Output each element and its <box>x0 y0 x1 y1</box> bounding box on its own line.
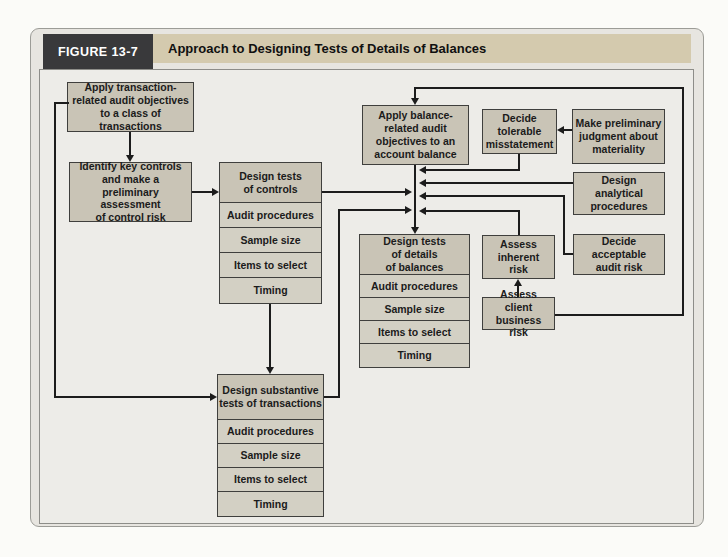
connector-substantive-to-junction <box>338 209 340 398</box>
connector-tolerable-to-junction <box>425 169 520 171</box>
node-decide-tolerable-misstatement: Decide tolerable misstatement <box>482 109 557 154</box>
arrowhead-left-icon <box>557 126 564 134</box>
stack-design-substantive-tests: Design substantive tests of transactions… <box>217 374 324 517</box>
connector-client-risk-to-balance-loop <box>555 314 684 316</box>
stack-row-audit-procedures: Audit procedures <box>220 203 321 228</box>
connector-inherent-risk-to-junction <box>425 210 520 212</box>
node-identify-key-controls: Identify key controls and make a prelimi… <box>69 162 192 222</box>
stack-row-items-to-select: Items to select <box>220 253 321 278</box>
stack-row-timing: Timing <box>218 492 323 516</box>
stack-header-design-tests-of-controls: Design tests of controls <box>220 163 321 203</box>
flowchart-area: Apply transaction- related audit objecti… <box>39 69 694 524</box>
connector-inherent-risk-to-junction <box>518 211 520 235</box>
figure-title: Approach to Designing Tests of Details o… <box>153 34 691 63</box>
stack-row-sample-size: Sample size <box>220 228 321 253</box>
stack-row-sample-size: Sample size <box>218 444 323 468</box>
arrowhead-right-icon <box>405 188 412 196</box>
arrowhead-down-icon <box>126 155 134 162</box>
connector-acceptable-risk-to-junction <box>563 195 565 255</box>
figure-card: FIGURE 13-7 Approach to Designing Tests … <box>30 28 704 527</box>
stack-header-design-substantive-tests: Design substantive tests of transactions <box>218 375 323 420</box>
stack-row-audit-procedures: Audit procedures <box>360 275 469 298</box>
connector-balance-to-details <box>414 165 416 227</box>
arrowhead-down-icon <box>411 227 419 234</box>
connector-acceptable-risk-to-junction <box>564 253 573 255</box>
stack-row-sample-size: Sample size <box>360 298 469 321</box>
connector-transaction-to-substantive-loop <box>54 102 56 398</box>
node-apply-balance-related-audit-objectives: Apply balance- related audit objectives … <box>362 105 469 165</box>
node-apply-transaction-related-audit-objectives: Apply transaction- related audit objecti… <box>67 82 194 132</box>
connector-transaction-to-substantive-loop <box>54 396 211 398</box>
node-design-analytical-procedures: Design analytical procedures <box>573 172 665 215</box>
stack-design-tests-of-controls: Design tests of controls Audit procedure… <box>219 162 322 304</box>
connector-client-risk-to-inherent-risk <box>517 285 519 297</box>
arrowhead-left-icon <box>419 207 426 215</box>
stack-design-tests-of-details-of-balances: Design tests of details of balances Audi… <box>359 234 470 368</box>
node-assess-client-business-risk: Assess client business risk <box>482 297 555 330</box>
connector-transaction-to-identify <box>129 132 131 156</box>
arrowhead-right-icon <box>210 393 217 401</box>
node-assess-inherent-risk: Assess inherent risk <box>482 235 555 279</box>
stack-row-timing: Timing <box>220 278 321 303</box>
node-decide-acceptable-audit-risk: Decide acceptable audit risk <box>573 234 665 275</box>
arrowhead-left-icon <box>419 192 426 200</box>
connector-identify-to-controls <box>192 191 214 193</box>
arrowhead-right-icon <box>212 188 219 196</box>
connector-substantive-to-junction <box>338 209 406 211</box>
node-make-preliminary-judgment-materiality: Make preliminary judgment about material… <box>572 109 665 164</box>
stack-row-items-to-select: Items to select <box>218 468 323 492</box>
connector-acceptable-risk-to-junction <box>425 195 565 197</box>
connector-controls-to-substantive <box>269 304 271 368</box>
stack-row-timing: Timing <box>360 344 469 367</box>
connector-controls-to-junction <box>322 191 406 193</box>
arrowhead-left-icon <box>419 166 426 174</box>
arrowhead-left-icon <box>419 179 426 187</box>
stack-row-items-to-select: Items to select <box>360 321 469 344</box>
arrowhead-up-icon <box>514 279 522 286</box>
connector-transaction-to-substantive-loop <box>54 102 69 104</box>
arrowhead-right-icon <box>405 206 412 214</box>
figure-number-label: FIGURE 13-7 <box>43 34 153 69</box>
stack-header-design-tests-of-details: Design tests of details of balances <box>360 235 469 275</box>
arrowhead-down-icon <box>266 367 274 374</box>
connector-client-risk-to-balance-loop <box>415 87 684 89</box>
arrowhead-down-icon <box>411 98 419 105</box>
stack-row-audit-procedures: Audit procedures <box>218 420 323 444</box>
connector-analytical-to-junction <box>425 182 573 184</box>
connector-client-risk-to-balance-loop <box>682 87 684 316</box>
